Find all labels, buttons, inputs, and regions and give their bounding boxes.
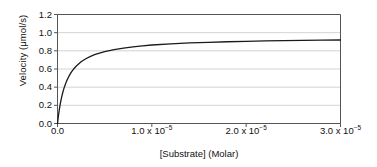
plot-area bbox=[0, 0, 377, 167]
gridlines bbox=[58, 33, 341, 106]
chart-figure: Velocity (μmol/s) 0.00.20.40.60.81.01.2 … bbox=[0, 0, 377, 167]
axis-ticks bbox=[54, 15, 341, 128]
data-series-line bbox=[58, 40, 341, 123]
